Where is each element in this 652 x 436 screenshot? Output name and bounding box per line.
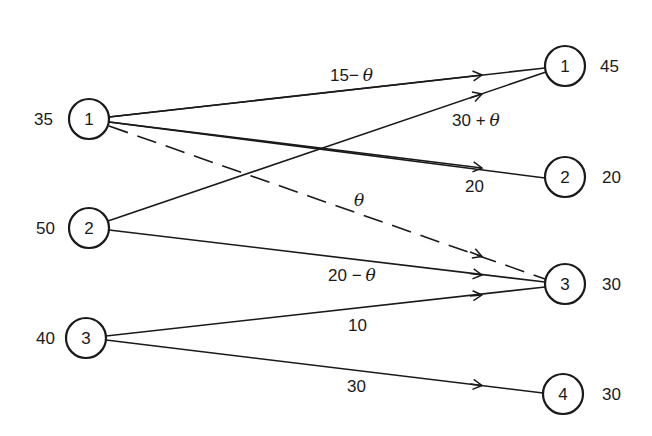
- sink-node-3: 3: [545, 264, 585, 304]
- source-node-3: 3: [66, 318, 106, 358]
- svg-text:3: 3: [81, 329, 90, 348]
- sink-node-1: 1: [545, 46, 585, 86]
- supply-label-1: 35: [34, 110, 53, 129]
- edge-label-s1-d2: 20: [465, 177, 484, 196]
- source-node-2: 2: [69, 208, 109, 248]
- svg-text:2: 2: [84, 219, 93, 238]
- demand-label-4: 30: [602, 385, 621, 404]
- sink-node-2: 2: [545, 157, 585, 197]
- svg-text:4: 4: [558, 385, 567, 404]
- demand-label-1: 45: [600, 57, 619, 76]
- svg-text:1: 1: [84, 110, 93, 129]
- edge-s3-d3: [106, 287, 545, 336]
- edge-label-s2-d3: 20 −θ: [328, 265, 376, 285]
- supply-label-3: 40: [36, 329, 55, 348]
- demand-label-3: 30: [602, 275, 621, 294]
- edge-label-s2-d1: 30 +θ: [452, 110, 500, 130]
- edge-label-s1-d3: θ: [354, 190, 364, 210]
- source-node-1: 1: [69, 99, 109, 139]
- svg-text:3: 3: [560, 275, 569, 294]
- edge-label-s3-d3: 10: [348, 316, 367, 335]
- svg-text:1: 1: [560, 57, 569, 76]
- demand-label-2: 20: [602, 168, 621, 187]
- sink-node-4: 4: [543, 374, 583, 414]
- edge-label-s1-d1: 15−θ: [330, 65, 373, 85]
- transportation-diagram: 1 2 3 1 2 3 4 35 50 40 45 20 30 30 15−θ …: [0, 0, 652, 436]
- edge-label-s3-d4: 30: [347, 377, 366, 396]
- supply-label-2: 50: [36, 219, 55, 238]
- svg-text:2: 2: [560, 168, 569, 187]
